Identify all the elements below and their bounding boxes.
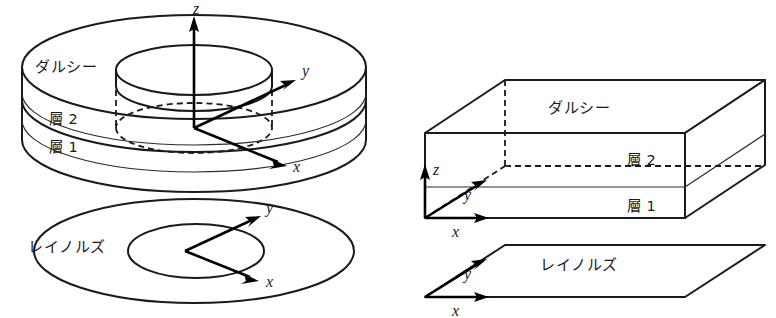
left-panel-reynolds-annulus: y x レイノルズ xyxy=(28,199,354,303)
cylinder-darcy-label: ダルシー xyxy=(35,58,97,76)
box-layer2-label: 層 2 xyxy=(627,152,656,168)
box-layer1-label: 層 1 xyxy=(627,198,656,214)
box-axis-x-label: x xyxy=(451,223,459,240)
reynolds-plane-label: レイノルズ xyxy=(540,256,618,274)
reynolds-annulus-axis-y-label: y xyxy=(264,199,274,217)
diagram-canvas: z y x ダルシー 層 2 層 1 y x レイノルズ xyxy=(0,0,776,318)
cylinder-axis-x-label: x xyxy=(292,158,300,175)
reynolds-annulus-label: レイノルズ xyxy=(28,238,106,256)
cylinder-layer2-label: 層 2 xyxy=(49,111,78,127)
box-axis-z-label: z xyxy=(432,161,440,178)
reynolds-plane-axis-x-label: x xyxy=(451,302,459,318)
left-panel-cylinder: z y x ダルシー 層 2 層 1 xyxy=(22,0,366,192)
box-axis-y-label: y xyxy=(462,186,472,204)
reynolds-annulus-inner-ellipse xyxy=(128,224,264,278)
right-panel-reynolds-plane: y x レイノルズ xyxy=(425,245,765,318)
cylinder-axis-y-label: y xyxy=(300,62,310,80)
cylinder-axis-z-label: z xyxy=(192,0,200,17)
reynolds-plane-axis-y-label: y xyxy=(462,265,472,283)
cylinder-layer1-label: 層 1 xyxy=(49,139,78,155)
reynolds-annulus-axis-x-label: x xyxy=(265,273,273,290)
box-darcy-label: ダルシー xyxy=(548,99,610,117)
figure-root: z y x ダルシー 層 2 層 1 y x レイノルズ xyxy=(0,0,776,318)
right-panel-box: z y x ダルシー 層 2 層 1 xyxy=(420,80,765,240)
